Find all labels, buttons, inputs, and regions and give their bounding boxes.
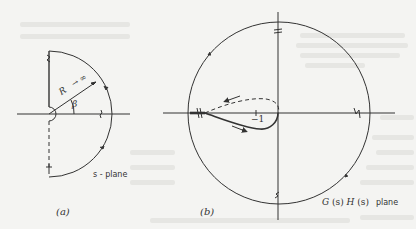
- angle-beta-label: β: [72, 99, 77, 109]
- imag-break-bottom: [46, 164, 52, 170]
- nyquist-loop-solid: [205, 113, 278, 129]
- direction-arrow-b-upper: [226, 96, 240, 101]
- direction-arrow-a2: [100, 146, 104, 149]
- gh-plane-label: G (s) H (s) plane: [322, 197, 398, 207]
- direction-arrow-b-lower: [232, 126, 245, 131]
- s-plane-label: s - plane: [93, 170, 127, 179]
- panel-a-s-plane: [17, 51, 130, 177]
- panel-b-gh-plane: [163, 12, 395, 220]
- gh-label-g: G: [322, 197, 329, 207]
- caption-a: (a): [56, 206, 70, 217]
- radius-line: [49, 82, 96, 114]
- gh-label-s2: (s): [357, 197, 369, 207]
- axis-break-a: [100, 110, 102, 118]
- gh-label-h: H: [347, 197, 355, 207]
- nyquist-loop-dashed: [205, 99, 279, 113]
- gh-label-s1: (s): [332, 197, 344, 207]
- nyquist-figure: [0, 0, 416, 229]
- gh-label-plane: plane: [376, 198, 398, 207]
- critical-point-label: −1: [251, 114, 264, 124]
- caption-b: (b): [200, 206, 214, 217]
